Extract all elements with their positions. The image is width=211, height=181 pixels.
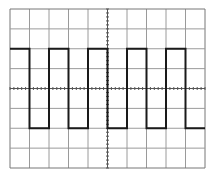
oscilloscope-display <box>0 0 211 181</box>
